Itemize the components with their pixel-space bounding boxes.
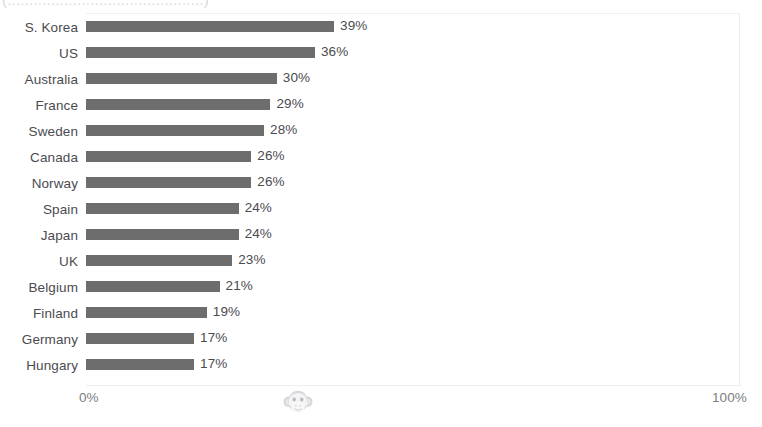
bar-value-label: 17% bbox=[200, 356, 227, 371]
bar-track: 36% bbox=[86, 40, 762, 66]
bar-track: 28% bbox=[86, 118, 762, 144]
bar bbox=[86, 47, 315, 58]
bar-track: 26% bbox=[86, 170, 762, 196]
bar-track: 23% bbox=[86, 248, 762, 274]
bar-track: 26% bbox=[86, 144, 762, 170]
category-label: Belgium bbox=[0, 280, 78, 295]
bar bbox=[86, 21, 334, 32]
category-label: France bbox=[0, 98, 78, 113]
bar-track: 17% bbox=[86, 352, 762, 378]
bar bbox=[86, 307, 207, 318]
bar-value-label: 24% bbox=[245, 226, 272, 241]
bar-track: 39% bbox=[86, 14, 762, 40]
bar-row: Spain24% bbox=[0, 196, 762, 222]
category-label: Sweden bbox=[0, 124, 78, 139]
bar bbox=[86, 229, 239, 240]
bar bbox=[86, 203, 239, 214]
bar bbox=[86, 255, 232, 266]
bar-track: 24% bbox=[86, 196, 762, 222]
bar-row: US36% bbox=[0, 40, 762, 66]
bar-track: 30% bbox=[86, 66, 762, 92]
clipped-title-text: (.......................................… bbox=[2, 0, 209, 8]
bar-value-label: 36% bbox=[321, 44, 348, 59]
bar bbox=[86, 333, 194, 344]
clipped-title-strip: (.......................................… bbox=[0, 0, 762, 13]
bar-row: Sweden28% bbox=[0, 118, 762, 144]
bar bbox=[86, 99, 270, 110]
bar bbox=[86, 359, 194, 370]
bar-value-label: 23% bbox=[238, 252, 265, 267]
x-axis-tick-max: 100% bbox=[712, 390, 747, 405]
bar-track: 19% bbox=[86, 300, 762, 326]
bar bbox=[86, 125, 264, 136]
bar-row: Canada26% bbox=[0, 144, 762, 170]
bar-track: 17% bbox=[86, 326, 762, 352]
x-axis-tick-min: 0% bbox=[79, 390, 99, 405]
bar-value-label: 39% bbox=[340, 18, 367, 33]
bar bbox=[86, 177, 251, 188]
bar-chart: (.......................................… bbox=[0, 0, 762, 427]
category-label: Spain bbox=[0, 202, 78, 217]
category-label: Norway bbox=[0, 176, 78, 191]
bar-value-label: 26% bbox=[257, 174, 284, 189]
bar-value-label: 30% bbox=[283, 70, 310, 85]
bar-row: S. Korea39% bbox=[0, 14, 762, 40]
bar-row: Hungary17% bbox=[0, 352, 762, 378]
category-label: Hungary bbox=[0, 358, 78, 373]
bar-row: Finland19% bbox=[0, 300, 762, 326]
category-label: UK bbox=[0, 254, 78, 269]
bar-value-label: 19% bbox=[213, 304, 240, 319]
category-label: US bbox=[0, 46, 78, 61]
category-label: S. Korea bbox=[0, 20, 78, 35]
x-axis-baseline bbox=[86, 385, 741, 386]
category-label: Canada bbox=[0, 150, 78, 165]
bar-rows: S. Korea39%US36%Australia30%France29%Swe… bbox=[0, 14, 762, 378]
bar-track: 21% bbox=[86, 274, 762, 300]
bar-value-label: 28% bbox=[270, 122, 297, 137]
category-label: Finland bbox=[0, 306, 78, 321]
category-label: Australia bbox=[0, 72, 78, 87]
bar bbox=[86, 281, 220, 292]
bar-value-label: 21% bbox=[226, 278, 253, 293]
bar-track: 24% bbox=[86, 222, 762, 248]
bar-row: Japan24% bbox=[0, 222, 762, 248]
monkey-face-icon bbox=[283, 389, 313, 415]
bar bbox=[86, 151, 251, 162]
bar-value-label: 24% bbox=[245, 200, 272, 215]
bar-track: 29% bbox=[86, 92, 762, 118]
bar-value-label: 17% bbox=[200, 330, 227, 345]
category-label: Japan bbox=[0, 228, 78, 243]
bar-value-label: 29% bbox=[276, 96, 303, 111]
bar-row: Australia30% bbox=[0, 66, 762, 92]
bar-row: UK23% bbox=[0, 248, 762, 274]
bar-row: Belgium21% bbox=[0, 274, 762, 300]
bar-row: Germany17% bbox=[0, 326, 762, 352]
bar-row: France29% bbox=[0, 92, 762, 118]
bar-row: Norway26% bbox=[0, 170, 762, 196]
category-label: Germany bbox=[0, 332, 78, 347]
bar bbox=[86, 73, 277, 84]
bar-value-label: 26% bbox=[257, 148, 284, 163]
